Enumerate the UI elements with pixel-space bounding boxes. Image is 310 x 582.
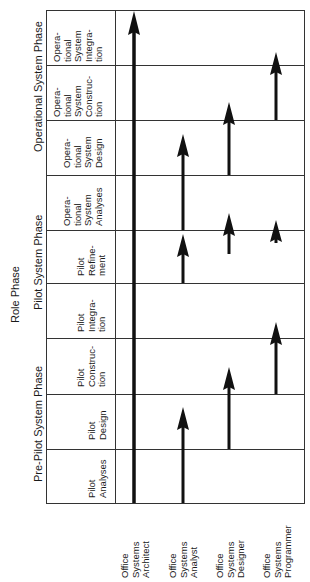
phase-pre-pilot-system: Pre-Pilot System Phase xyxy=(32,366,44,482)
stage-operational-construction: Opera- tional System Construc- tion xyxy=(52,76,105,117)
stage-pilot-refinement: Pilot Refine- ment xyxy=(76,245,108,276)
role-designer: Office Systems Designer xyxy=(215,540,247,578)
arrow-programmer-pilot-integration xyxy=(270,322,282,394)
arrow-analyst-pilot-refinement xyxy=(177,234,189,283)
arrow-analyst-pilot-design xyxy=(177,407,189,503)
arrow-programmer-operational-integration xyxy=(270,52,282,120)
role-phase-grid xyxy=(0,0,310,582)
arrow-designer-operational-analyses xyxy=(223,213,235,254)
arrow-designer-pilot-construction xyxy=(223,367,235,449)
stage-operational-design: Opera- tional System Design xyxy=(62,136,104,168)
stage-pilot-analyses: Pilot Analyses xyxy=(87,459,108,498)
role-architect: Office Systems Architect xyxy=(120,541,152,578)
phase-pilot-system: Pilot System Phase xyxy=(32,215,44,310)
phase-operational-system: Operational System Phase xyxy=(32,21,44,152)
arrow-designer-operational-construction xyxy=(223,102,235,175)
stage-pilot-design: Pilot Design xyxy=(87,410,108,440)
arrow-programmer-operational-analyses xyxy=(270,220,282,243)
role-analyst: Office Systems Analyst xyxy=(168,542,200,578)
role-programmer: Office Systems Programmer xyxy=(262,525,294,578)
role-phase-title: Role Phase xyxy=(9,266,21,323)
stage-operational-analyses: Opera- tional System Analyses xyxy=(62,187,104,226)
arrow-analyst-operational-design xyxy=(177,134,189,230)
stage-pilot-construction: Pilot Construc- tion xyxy=(76,346,108,387)
stage-pilot-integration: Pilot Integra- tion xyxy=(76,299,108,332)
stage-operational-integration: Opera- tional System Integra- tion xyxy=(52,29,105,62)
arrow-architect-full xyxy=(128,11,140,503)
